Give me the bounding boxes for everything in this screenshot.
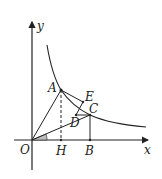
- point-B: [89, 139, 91, 141]
- point-H: [60, 139, 62, 141]
- segment-AE: [61, 90, 83, 102]
- point-E: [82, 101, 84, 103]
- geometry-diagram: y x O H B A E C D: [0, 0, 162, 179]
- label-O: O: [20, 143, 30, 157]
- label-A: A: [47, 81, 57, 95]
- segment-OA: [32, 90, 61, 140]
- point-A: [60, 89, 63, 92]
- label-H: H: [55, 144, 67, 158]
- label-x: x: [144, 143, 151, 157]
- label-B: B: [84, 144, 94, 158]
- label-y: y: [36, 19, 44, 33]
- segment-ED: [76, 102, 83, 115]
- label-C: C: [89, 102, 98, 116]
- label-D: D: [69, 116, 80, 130]
